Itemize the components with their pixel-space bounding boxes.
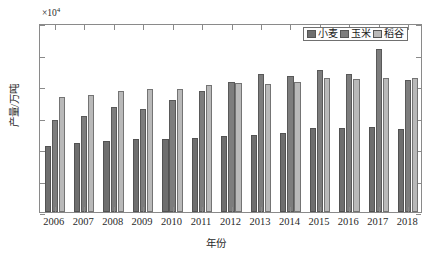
x-axis-tick-label: 2017 — [367, 216, 388, 227]
bar — [103, 141, 109, 212]
bar-group — [335, 23, 364, 212]
bar — [251, 135, 257, 212]
chart-legend: 小麦玉米稻谷 — [303, 27, 408, 41]
x-axis-tick-label: 2011 — [191, 216, 212, 227]
x-axis-tick-label: 2018 — [397, 216, 418, 227]
bar — [294, 82, 300, 212]
bar — [405, 80, 411, 212]
x-axis-tick-label: 2014 — [279, 216, 300, 227]
bar — [398, 129, 404, 212]
y-axis-exponent-base: ×10 — [42, 8, 57, 18]
chart-figure: ×104 产量/万吨 年份 小麦玉米稻谷 00.511.522.53200620… — [0, 0, 431, 263]
bar — [228, 82, 234, 212]
x-axis-tick — [320, 207, 321, 212]
bar — [192, 138, 198, 212]
y-axis-tick — [416, 214, 421, 215]
bar-group — [217, 23, 246, 212]
legend-label: 玉米 — [351, 29, 371, 39]
bar — [346, 74, 352, 212]
legend-entry[interactable]: 稻谷 — [373, 29, 404, 39]
bar-group — [246, 23, 275, 212]
x-axis-tick-label: 2007 — [73, 216, 94, 227]
bar — [339, 128, 345, 212]
bar — [177, 89, 183, 212]
x-axis-tick-label: 2009 — [132, 216, 153, 227]
x-axis-tick — [290, 207, 291, 212]
legend-swatch — [373, 30, 382, 38]
x-axis-tick — [349, 207, 350, 212]
legend-label: 稻谷 — [384, 29, 404, 39]
bar — [412, 78, 418, 212]
x-axis-tick — [232, 207, 233, 212]
bar — [353, 79, 359, 212]
x-axis-tick — [408, 207, 409, 212]
bar-group — [394, 23, 423, 212]
legend-swatch — [340, 30, 349, 38]
x-axis-tick — [232, 25, 233, 30]
bar — [45, 146, 51, 212]
bar — [88, 95, 94, 212]
bar — [199, 91, 205, 212]
bar-group — [128, 23, 157, 212]
bar — [287, 76, 293, 212]
x-axis-tick — [202, 25, 203, 30]
x-axis-tick — [84, 207, 85, 212]
bar — [52, 120, 58, 212]
bar-group — [305, 23, 334, 212]
bar — [310, 128, 316, 212]
bar — [118, 91, 124, 212]
x-axis-tick — [202, 207, 203, 212]
x-axis-tick-label: 2015 — [308, 216, 329, 227]
x-axis-tick — [261, 25, 262, 30]
bar-group — [187, 23, 216, 212]
bar — [376, 49, 382, 212]
bar — [280, 133, 286, 213]
x-axis-tick — [173, 25, 174, 30]
bar-group — [158, 23, 187, 212]
bar — [235, 83, 241, 212]
x-axis-tick — [84, 25, 85, 30]
x-axis-tick — [143, 207, 144, 212]
y-axis-tick — [40, 214, 45, 215]
x-axis-tick-label: 2006 — [43, 216, 64, 227]
legend-entry[interactable]: 玉米 — [340, 29, 371, 39]
x-axis-tick — [55, 25, 56, 30]
x-axis-tick — [143, 25, 144, 30]
plot-area — [40, 25, 421, 212]
bar — [369, 127, 375, 212]
x-axis-tick — [114, 207, 115, 212]
bar — [265, 84, 271, 212]
bar — [133, 139, 139, 212]
bar-group — [276, 23, 305, 212]
y-axis-title: 产量/万吨 — [6, 51, 21, 161]
x-axis-tick-label: 2012 — [220, 216, 241, 227]
bar-group — [364, 23, 393, 212]
x-axis-tick — [408, 25, 409, 30]
bar-group — [69, 23, 98, 212]
legend-label: 小麦 — [318, 29, 338, 39]
bar — [383, 78, 389, 212]
x-axis-tick-label: 2016 — [338, 216, 359, 227]
bar — [324, 78, 330, 212]
x-axis-tick-label: 2010 — [161, 216, 182, 227]
bar-group — [99, 23, 128, 212]
bar — [147, 89, 153, 212]
bar — [317, 70, 323, 212]
bar — [162, 139, 168, 212]
bar — [81, 116, 87, 212]
y-axis-exponent: ×104 — [42, 6, 60, 18]
bar-group — [40, 23, 69, 212]
x-axis-tick — [114, 25, 115, 30]
x-axis-tick-label: 2008 — [102, 216, 123, 227]
bar — [221, 136, 227, 212]
legend-entry[interactable]: 小麦 — [307, 29, 338, 39]
x-axis-tick — [173, 207, 174, 212]
bar — [74, 143, 80, 212]
bar — [258, 74, 264, 212]
bar — [140, 109, 146, 212]
bar — [169, 100, 175, 212]
bar — [59, 97, 65, 212]
x-axis-title: 年份 — [0, 235, 431, 250]
x-axis-tick — [55, 207, 56, 212]
bar — [206, 85, 212, 212]
